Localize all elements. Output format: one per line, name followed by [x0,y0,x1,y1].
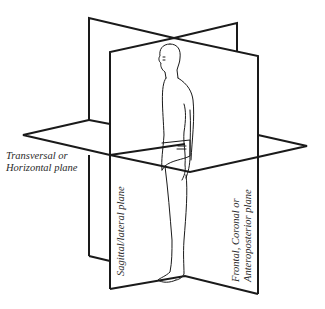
human-figure [158,44,194,282]
frontal-plane-label: Frontal, Coronal or Anteroposterior plan… [230,189,254,282]
frontal-label-line-2: Anteroposterior plane [242,189,254,282]
sagittal-plane-label: Sagittal/lateral plane [115,186,127,276]
frontal-label-line-1: Frontal, Coronal or [230,189,242,282]
transversal-label-line-2: Horizontal plane [6,162,77,174]
sagittal-label-text: Sagittal/lateral plane [115,186,127,276]
sagittal-plane [89,18,237,261]
transversal-plane-label: Transversal or Horizontal plane [6,150,77,174]
anatomical-planes-diagram: Transversal or Horizontal plane Sagittal… [0,0,325,309]
transversal-label-line-1: Transversal or [6,150,77,162]
